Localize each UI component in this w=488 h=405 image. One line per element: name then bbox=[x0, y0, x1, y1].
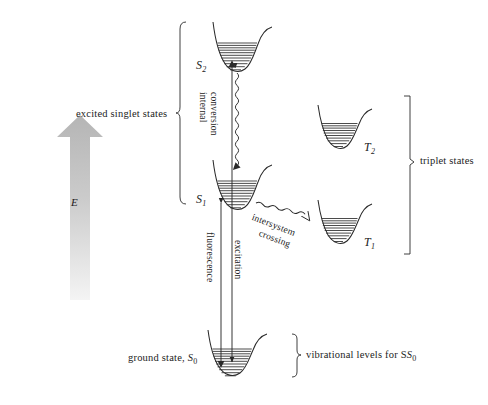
vibrational-levels-T1 bbox=[322, 219, 358, 242]
state-label-T1: T1 bbox=[364, 235, 375, 251]
vibrational-state-sub: 0 bbox=[412, 354, 416, 363]
energy-axis-arrow bbox=[57, 115, 103, 300]
ground-state-sub: 0 bbox=[193, 357, 197, 366]
state-label-T1-sub: 1 bbox=[371, 242, 375, 251]
label-excited-singlet-states: excited singlet states bbox=[76, 108, 167, 119]
label-fluorescence: fluorescence bbox=[205, 232, 215, 282]
state-well-S2 bbox=[213, 22, 272, 71]
label-internal-conversion-line1: internal bbox=[198, 92, 208, 123]
label-internal-conversion-line2: conversion bbox=[209, 92, 219, 136]
ground-state-text: ground state, bbox=[128, 352, 188, 363]
vibrational-text: vibrational levels for S bbox=[306, 349, 407, 360]
state-well-S1 bbox=[213, 160, 272, 209]
state-label-S2-sub: 2 bbox=[202, 65, 206, 74]
excited-singlet-bracket bbox=[176, 22, 186, 204]
relaxation-arrowheads bbox=[219, 63, 238, 363]
label-excitation: excitation bbox=[233, 240, 243, 279]
state-label-T2: T2 bbox=[364, 140, 375, 156]
label-ground-state: ground state, S0 bbox=[128, 352, 197, 366]
jablonski-diagram: excited singlet states triplet states vi… bbox=[0, 0, 488, 405]
state-label-S1: S1 bbox=[196, 192, 206, 208]
internal-conversion-arrow bbox=[235, 73, 238, 166]
state-label-T2-sub: 2 bbox=[371, 147, 375, 156]
intersystem-crossing-arrow bbox=[256, 201, 306, 215]
triplet-bracket bbox=[404, 96, 414, 254]
vibrational-levels-S2 bbox=[218, 43, 258, 70]
energy-axis-label: E bbox=[71, 196, 78, 208]
state-label-T2-symbol: T bbox=[364, 140, 371, 154]
state-label-S2: S2 bbox=[196, 58, 206, 74]
state-label-S1-sub: 1 bbox=[202, 199, 206, 208]
state-label-T1-symbol: T bbox=[364, 235, 371, 249]
label-triplet-states: triplet states bbox=[420, 155, 474, 166]
state-well-S0 bbox=[208, 330, 267, 376]
vibrational-bracket bbox=[292, 334, 301, 377]
label-vibrational-levels: vibrational levels for SS0 bbox=[306, 349, 416, 363]
vibrational-levels-T2 bbox=[322, 124, 358, 147]
vibrational-levels-S1 bbox=[218, 181, 258, 208]
